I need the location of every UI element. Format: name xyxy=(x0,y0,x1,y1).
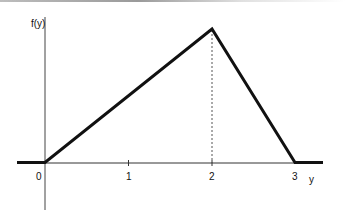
x-tick-label-3: 3 xyxy=(292,172,298,182)
x-tick-label-2: 2 xyxy=(209,172,215,182)
x-tick-label-1: 1 xyxy=(126,172,132,182)
x-axis-label: y xyxy=(309,175,314,185)
density-line xyxy=(17,29,323,163)
y-axis-label: f(y) xyxy=(31,19,45,29)
x-tick-label-0: 0 xyxy=(36,172,42,182)
triangular-density-chart xyxy=(0,0,345,219)
